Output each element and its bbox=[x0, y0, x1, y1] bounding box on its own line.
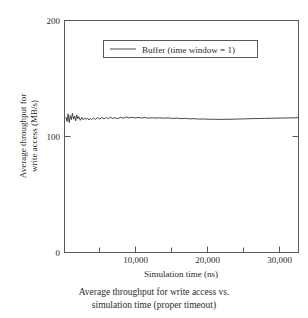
x-tick-label-30000: 30,000 bbox=[267, 255, 292, 265]
y-axis-title-line1: Average throughput for bbox=[18, 94, 28, 178]
legend-label-buffer: Buffer (time window = 1) bbox=[142, 45, 235, 55]
caption-line-2: simulation time (proper timeout) bbox=[0, 299, 308, 312]
series-line-buffer bbox=[66, 113, 298, 122]
x-axis-ticks bbox=[100, 247, 280, 253]
y-tick-label-100: 100 bbox=[47, 132, 61, 142]
figure-caption: Average throughput for write access vs. … bbox=[0, 286, 308, 312]
line-chart-svg: 200 100 0 10,000 20,000 30,000 Simulatio… bbox=[0, 0, 308, 284]
y-axis-title: Average throughput for write access (MB/… bbox=[18, 94, 39, 178]
x-tick-label-20000: 20,000 bbox=[195, 255, 220, 265]
chart-plot-area: 200 100 0 10,000 20,000 30,000 Simulatio… bbox=[0, 0, 308, 284]
y-axis-title-line2: write access (MB/s) bbox=[29, 100, 39, 172]
y-tick-label-0: 0 bbox=[56, 248, 61, 258]
x-axis-title: Simulation time (ns) bbox=[144, 269, 218, 279]
y-tick-label-200: 200 bbox=[47, 16, 61, 26]
chart-legend[interactable]: Buffer (time window = 1) bbox=[104, 41, 258, 58]
figure-container: 200 100 0 10,000 20,000 30,000 Simulatio… bbox=[0, 0, 308, 318]
x-tick-label-10000: 10,000 bbox=[123, 255, 148, 265]
caption-line-1: Average throughput for write access vs. bbox=[0, 286, 308, 299]
